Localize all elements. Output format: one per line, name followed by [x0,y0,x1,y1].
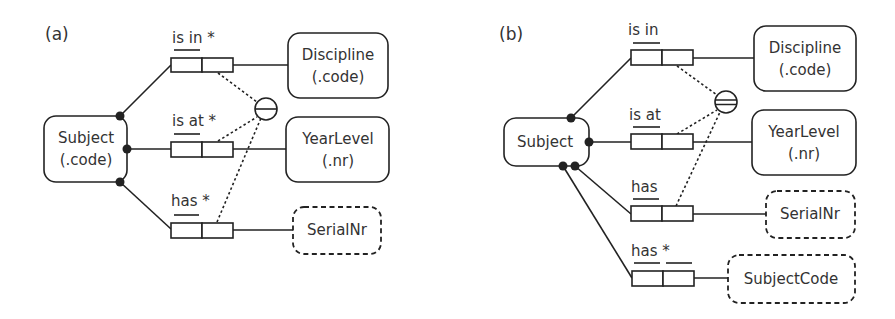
panel-b: (b) Subject is in [499,21,856,303]
svg-text:SerialNr: SerialNr [780,205,841,223]
svg-text:(.code): (.code) [312,68,365,86]
constraint-connector [218,73,257,102]
role-connector [120,65,171,116]
entity-subject[interactable]: Subject (.code) [44,116,127,182]
role-connector [575,166,631,214]
role-connector [563,166,632,278]
panel-a-label: (a) [45,24,69,44]
svg-text:SerialNr: SerialNr [307,221,368,239]
svg-text:is in: is in [628,21,658,39]
role-connector [120,182,171,229]
mandatory-role-dot [559,162,568,171]
constraint-connector [677,110,717,134]
svg-text:is at: is at [629,106,661,124]
svg-text:(.nr): (.nr) [322,152,354,170]
preferred-uniqueness-constraint-icon [715,91,737,113]
svg-text:has *: has * [631,242,670,260]
constraint-connector [676,110,721,206]
panel-b-label: (b) [499,24,523,44]
svg-text:YearLevel: YearLevel [301,130,373,148]
svg-text:(.code): (.code) [779,61,832,79]
constraint-connector [217,118,261,222]
svg-text:Discipline: Discipline [769,39,842,57]
entity-yearlevel[interactable]: YearLevel (.nr) [752,110,856,175]
svg-text:SubjectCode: SubjectCode [744,270,838,288]
svg-text:(.code): (.code) [60,151,113,169]
entity-subject[interactable]: Subject [504,118,589,166]
value-type-serialnr[interactable]: SerialNr [293,207,381,254]
constraint-connector [218,117,257,141]
fact-type-is-in[interactable]: is in [628,21,693,65]
svg-text:is in *: is in * [172,29,215,47]
fact-type-is-at[interactable]: is at * [171,112,233,157]
fact-type-has[interactable]: has * [171,192,233,238]
constraint-connector [677,66,717,95]
entity-discipline[interactable]: Discipline (.code) [288,33,388,98]
mandatory-role-dot [571,162,580,171]
value-type-serialnr[interactable]: SerialNr [766,191,855,238]
fact-type-is-in[interactable]: is in * [171,29,233,72]
role-connector [571,58,631,118]
fact-type-has[interactable]: has [631,178,693,221]
svg-text:is at *: is at * [172,112,217,130]
mandatory-role-dot [567,114,576,123]
entity-discipline[interactable]: Discipline (.code) [754,26,856,91]
svg-text:has: has [631,178,658,196]
mandatory-role-dot [123,145,132,154]
mandatory-role-dot [116,112,125,121]
external-uniqueness-constraint-icon [255,98,277,120]
panel-a: (a) Subject (.code) is in * [44,24,389,254]
value-type-subjectcode[interactable]: SubjectCode [728,255,855,303]
entity-yearlevel[interactable]: YearLevel (.nr) [286,117,389,182]
svg-text:Subject: Subject [58,129,114,147]
mandatory-role-dot [585,138,594,147]
mandatory-role-dot [116,178,125,187]
svg-text:Subject: Subject [517,133,573,151]
fact-type-is-at[interactable]: is at [629,106,693,149]
svg-text:YearLevel: YearLevel [767,123,839,141]
fact-type-has-subjectcode[interactable]: has * [631,242,694,286]
svg-text:has *: has * [171,192,210,210]
orm-diagram: (a) Subject (.code) is in * [0,0,895,319]
svg-text:Discipline: Discipline [302,46,375,64]
svg-text:(.nr): (.nr) [788,145,820,163]
